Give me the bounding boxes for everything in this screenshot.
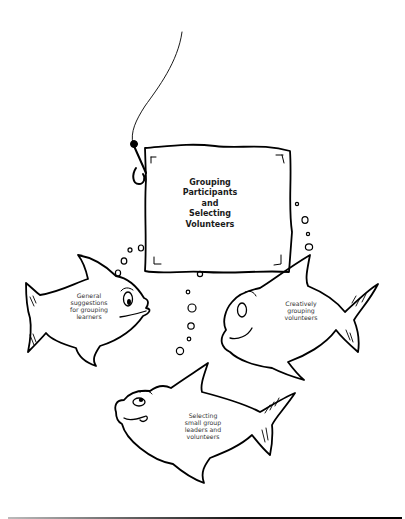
bubbles-right bbox=[295, 202, 312, 250]
fishing-line bbox=[132, 32, 182, 144]
bubbles-left bbox=[115, 245, 143, 276]
sign-title: Grouping Participants and Selecting Volu… bbox=[148, 178, 272, 230]
illustration-scene bbox=[0, 0, 405, 519]
fish-label-creatively-grouping: Creatively grouping volunteers bbox=[272, 300, 330, 321]
fishing-hook-icon bbox=[133, 146, 146, 184]
bubbles-middle bbox=[176, 271, 202, 354]
fish-label-selecting-leaders: Selecting small group leaders and volunt… bbox=[172, 412, 234, 441]
fish-label-general-suggestions: General suggestions for grouping learner… bbox=[58, 292, 120, 321]
